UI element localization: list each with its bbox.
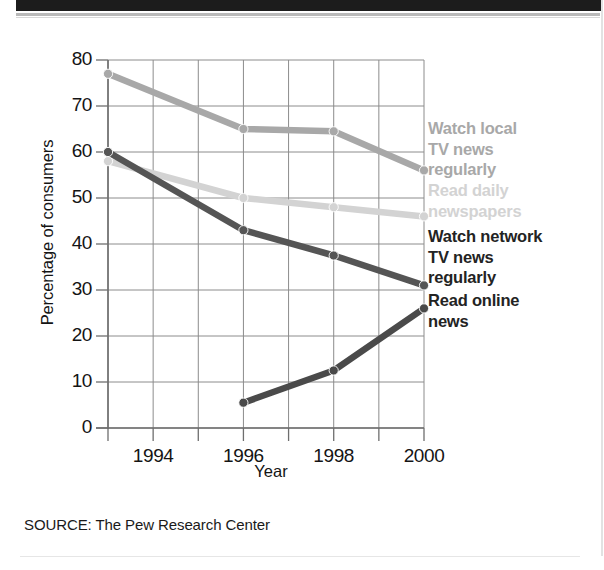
y-tick-label: 40 xyxy=(48,232,92,254)
data-point-3-1 xyxy=(329,366,338,375)
top-rule xyxy=(16,13,600,16)
legend-entry-0: Watch localTV newsregularly xyxy=(428,118,517,180)
y-tick-label: 0 xyxy=(48,416,92,438)
legend-label-line: regularly xyxy=(428,159,517,180)
data-point-0-0 xyxy=(103,69,112,78)
legend-label-line: Watch network xyxy=(428,226,542,247)
x-axis-title: Year xyxy=(206,462,336,481)
x-tick-label: 1994 xyxy=(115,445,191,467)
legend-label-line: news xyxy=(428,311,519,332)
legend-label-line: Watch local xyxy=(428,118,517,139)
data-point-0-1 xyxy=(239,124,248,133)
y-tick-label: 50 xyxy=(48,186,92,208)
y-tick-label: 20 xyxy=(48,324,92,346)
y-tick-label: 70 xyxy=(48,94,92,116)
legend-label-line: TV news xyxy=(428,247,542,268)
data-point-1-0 xyxy=(103,157,112,166)
data-point-1-2 xyxy=(329,203,338,212)
data-point-3-0 xyxy=(239,398,248,407)
legend-entry-3: Read onlinenews xyxy=(428,290,519,331)
top-black-banner xyxy=(16,0,602,11)
source-note: SOURCE: The Pew Research Center xyxy=(24,516,270,533)
y-tick-label: 10 xyxy=(48,370,92,392)
data-point-0-2 xyxy=(329,127,338,136)
y-tick-label: 60 xyxy=(48,140,92,162)
x-tick-label: 2000 xyxy=(386,445,462,467)
legend-entry-2: Watch networkTV newsregularly xyxy=(428,226,542,288)
line-chart: Percentage of consumers 8070605040302010… xyxy=(0,18,604,488)
bottom-rule xyxy=(20,556,580,557)
data-point-2-1 xyxy=(239,226,248,235)
legend-label-line: newspapers xyxy=(428,201,521,222)
series-line-0 xyxy=(108,74,424,171)
legend-label-line: regularly xyxy=(428,267,542,288)
y-tick-label: 80 xyxy=(48,48,92,70)
legend-label-line: Read online xyxy=(428,290,519,311)
data-point-2-0 xyxy=(103,147,112,156)
legend-label-line: Read daily xyxy=(428,180,521,201)
y-tick-label: 30 xyxy=(48,278,92,300)
legend-entry-1: Read dailynewspapers xyxy=(428,180,521,221)
legend-label-line: TV news xyxy=(428,139,517,160)
data-point-2-2 xyxy=(329,251,338,260)
series-line-1 xyxy=(108,161,424,216)
figure: Percentage of consumers 8070605040302010… xyxy=(0,18,604,570)
data-point-1-1 xyxy=(239,193,248,202)
